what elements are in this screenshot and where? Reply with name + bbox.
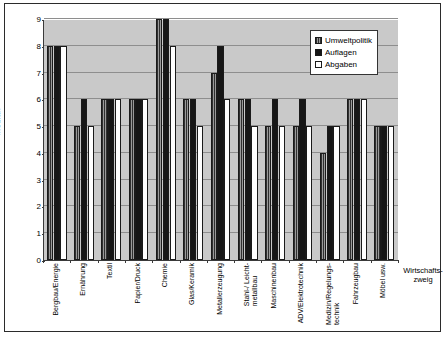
bar: [279, 126, 285, 260]
x-tick-label: ADV/Elektrotechnik: [297, 263, 305, 323]
bar: [88, 126, 94, 260]
bar: [81, 99, 87, 260]
bar: [224, 99, 230, 260]
x-tick-label: Fahrzeugbau: [352, 263, 360, 304]
x-tick-label: Maschinenbau: [270, 263, 278, 309]
bar: [347, 99, 353, 260]
y-axis-title: Median: [0, 108, 2, 135]
bar: [170, 46, 176, 260]
bar: [245, 99, 251, 260]
bar: [265, 126, 271, 260]
bar: [60, 46, 66, 260]
bar: [115, 99, 121, 260]
bar: [74, 126, 80, 260]
x-tick-mark: [207, 260, 208, 263]
x-tick-mark: [289, 260, 290, 263]
x-tick-label: Textil: [106, 263, 114, 279]
bar-group: [99, 20, 126, 260]
legend-item[interactable]: Auflagen: [315, 47, 372, 58]
legend-swatch-icon: [315, 37, 322, 44]
x-tick-mark: [371, 260, 372, 263]
x-tick-mark: [398, 260, 399, 263]
bar: [54, 46, 60, 260]
x-tick-mark: [70, 260, 71, 263]
bar: [381, 126, 387, 260]
x-tick-label: Ernährung: [79, 263, 87, 296]
chart-legend: UmweltpolitikAuflagenAbgaben: [310, 30, 378, 75]
bar: [272, 99, 278, 260]
x-tick-label: Medizin/Regelungs- technik: [325, 263, 340, 325]
legend-swatch-icon: [315, 49, 322, 56]
legend-label: Auflagen: [325, 48, 357, 57]
bar: [101, 99, 107, 260]
bar: [183, 99, 189, 260]
bar: [327, 126, 333, 260]
bar: [163, 19, 169, 260]
bar-group: [262, 20, 289, 260]
x-axis-tick-labels: Bergbau/EnergieErnährungTextilPapier/Dru…: [43, 263, 398, 337]
x-tick-label: Stahl-/ Leicht- metallbau: [243, 263, 258, 306]
x-tick-label: Möbel usw.: [379, 263, 387, 298]
chart-frame: Median 0123456789 Bergbau/EnergieErnähru…: [4, 3, 441, 332]
bar: [299, 99, 305, 260]
bar: [354, 99, 360, 260]
bar: [320, 153, 326, 260]
bar-group: [235, 20, 262, 260]
x-tick-mark: [180, 260, 181, 263]
bar: [306, 126, 312, 260]
x-tick-mark: [261, 260, 262, 263]
bar-group: [126, 20, 153, 260]
bar: [156, 19, 162, 260]
bar: [135, 99, 141, 260]
bar-group: [208, 20, 235, 260]
x-tick-mark: [316, 260, 317, 263]
legend-label: Umweltpolitik: [325, 36, 372, 45]
x-tick-label: Bergbau/Energie: [52, 263, 60, 316]
x-tick-mark: [152, 260, 153, 263]
bar-group: [71, 20, 98, 260]
bar-group: [153, 20, 180, 260]
bar: [361, 99, 367, 260]
x-tick-mark: [125, 260, 126, 263]
legend-item[interactable]: Umweltpolitik: [315, 35, 372, 46]
bar: [197, 126, 203, 260]
bar-group: [181, 20, 208, 260]
x-tick-label: Papier/Druck: [134, 263, 142, 303]
y-axis-tick-labels: 0123456789: [9, 20, 41, 261]
gridline: [44, 18, 398, 19]
bar: [211, 73, 217, 260]
bar: [47, 46, 53, 260]
bar: [190, 99, 196, 260]
x-tick-mark: [234, 260, 235, 263]
x-tick-mark: [98, 260, 99, 263]
bar: [129, 99, 135, 260]
legend-swatch-icon: [315, 61, 322, 68]
bar: [333, 126, 339, 260]
legend-item[interactable]: Abgaben: [315, 59, 372, 70]
bar: [293, 126, 299, 260]
legend-label: Abgaben: [325, 60, 357, 69]
bar: [388, 126, 394, 260]
x-tick-label: Metallerzeugung: [216, 263, 224, 315]
bar: [374, 126, 380, 260]
x-tick-label: Glas/Keramik: [188, 263, 196, 305]
x-tick-mark: [43, 260, 44, 263]
bar: [142, 99, 148, 260]
x-tick-mark: [343, 260, 344, 263]
bar: [238, 99, 244, 260]
bar: [217, 46, 223, 260]
bar: [108, 99, 114, 260]
x-axis-title: Wirtschafts- zweig: [401, 266, 445, 284]
bar-group: [44, 20, 71, 260]
x-tick-label: Chemie: [161, 263, 169, 287]
bar: [251, 126, 257, 260]
